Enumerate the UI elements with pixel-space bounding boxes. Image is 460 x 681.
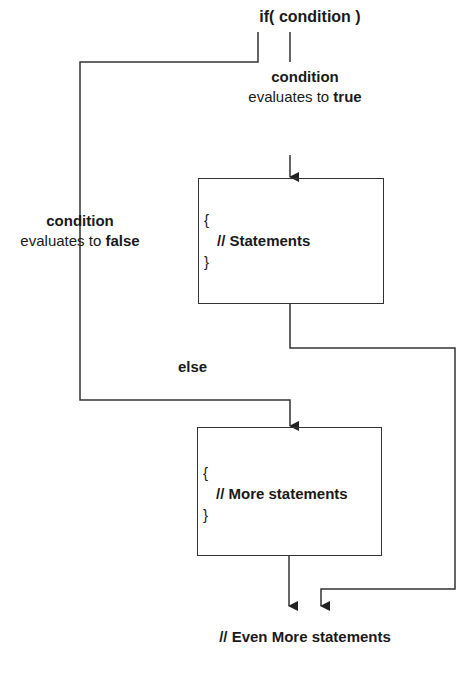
box2-close-brace: } [203,504,208,526]
true-branch-prefix: evaluates to [248,88,333,105]
true-branch-label: evaluates to true [248,88,361,105]
else-label: else [178,358,207,375]
true-branch-value: true [333,88,361,105]
box1-close-brace: } [204,251,209,273]
box1-statement: // Statements [217,230,310,252]
true-statements-box: { // Statements } [198,178,384,304]
box2-open-brace: { [203,462,208,484]
false-branch-value: false [105,232,139,249]
box2-statement: // More statements [216,483,348,505]
box1-open-brace: { [204,209,209,231]
footer-statement: // Even More statements [219,628,391,645]
true-branch-label-condition: condition [271,68,339,85]
if-condition-title: if( condition ) [259,8,360,26]
flow-lines [0,0,460,681]
false-branch-label-condition: condition [46,212,114,229]
false-branch-label: evaluates to false [20,232,139,249]
false-statements-box: { // More statements } [197,427,382,556]
false-branch-prefix: evaluates to [20,232,105,249]
